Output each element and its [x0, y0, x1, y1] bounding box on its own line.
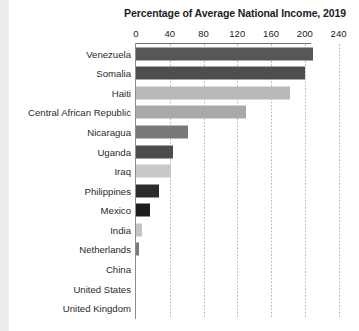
x-axis-tick-label: 160 — [253, 28, 289, 39]
bar-category-label: United Kingdom — [63, 303, 131, 314]
bar-row: Mexico — [136, 201, 347, 221]
bar-row: India — [136, 220, 347, 240]
bar-category-label: Mexico — [101, 205, 131, 216]
bar-row: Venezuela — [136, 44, 347, 64]
x-axis-tick-label: 80 — [186, 28, 222, 39]
bar — [136, 67, 305, 80]
bar — [136, 126, 188, 139]
bar-row: Nicaragua — [136, 122, 347, 142]
x-axis-tick-label: 120 — [219, 28, 255, 39]
bar — [136, 204, 150, 217]
bar — [136, 165, 171, 178]
bar-category-label: Nicaragua — [87, 127, 131, 138]
bar-category-label: United States — [73, 283, 131, 294]
bar-category-label: China — [106, 264, 131, 275]
bar — [136, 243, 139, 256]
bar-category-label: Venezuela — [86, 48, 131, 59]
bar — [136, 184, 159, 197]
bar-category-label: India — [110, 224, 131, 235]
bar-row: United States — [136, 279, 347, 299]
bar-category-label: Iraq — [114, 166, 131, 177]
bar-category-label: Haiti — [112, 87, 131, 98]
bar — [136, 47, 313, 60]
chart-title: Percentage of Average National Income, 2… — [113, 7, 357, 19]
bar-row: United Kingdom — [136, 298, 347, 318]
bar-category-label: Central African Republic — [28, 107, 131, 118]
bar-row: Netherlands — [136, 240, 347, 260]
bar-row: Central African Republic — [136, 103, 347, 123]
bar — [136, 86, 290, 99]
x-axis-tick-label: 40 — [152, 28, 188, 39]
bar-category-label: Uganda — [97, 146, 131, 157]
plot-area: VenezuelaSomaliaHaitiCentral African Rep… — [136, 44, 347, 318]
bar-row: Iraq — [136, 161, 347, 181]
bar — [136, 106, 246, 119]
bar — [136, 145, 173, 158]
x-axis-tick-label: 0 — [118, 28, 154, 39]
bar — [136, 223, 142, 236]
bar-category-label: Somalia — [96, 68, 131, 79]
bar-row: Uganda — [136, 142, 347, 162]
bar-row: Philippines — [136, 181, 347, 201]
x-axis-tick-label: 200 — [287, 28, 323, 39]
x-axis-tick-label: 240 — [321, 28, 357, 39]
bar-row: Somalia — [136, 64, 347, 84]
chart-container: Percentage of Average National Income, 2… — [0, 0, 359, 331]
bar-row: China — [136, 259, 347, 279]
bar-category-label: Netherlands — [79, 244, 131, 255]
page-left-margin-strip — [0, 0, 9, 331]
bar-category-label: Philippines — [85, 185, 131, 196]
bar-row: Haiti — [136, 83, 347, 103]
